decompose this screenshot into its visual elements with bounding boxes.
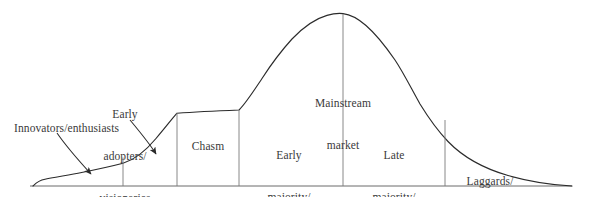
- label-late-majority-line2: majority/: [339, 190, 449, 197]
- label-early-adopters-visionaries: Early adopters/ visionaries: [85, 79, 165, 197]
- label-early-adopters-line3: visionaries: [85, 191, 165, 197]
- label-early-adopters-line2: adopters/: [85, 149, 165, 163]
- technology-adoption-lifecycle-diagram: Innovators/enthusiasts Early adopters/ v…: [0, 0, 596, 197]
- label-laggards-skeptics: Laggards/ skeptics: [445, 146, 535, 197]
- label-late-majority-line1: Late: [339, 148, 449, 162]
- label-chasm: Chasm: [178, 139, 238, 153]
- label-mainstream-line1: Mainstream: [288, 96, 398, 110]
- label-late-majority-conservatives: Late majority/ conservatives: [339, 120, 449, 197]
- label-early-majority-line2: majority/: [244, 190, 334, 197]
- label-early-adopters-line1: Early: [85, 107, 165, 121]
- label-laggards-line1: Laggards/: [445, 174, 535, 188]
